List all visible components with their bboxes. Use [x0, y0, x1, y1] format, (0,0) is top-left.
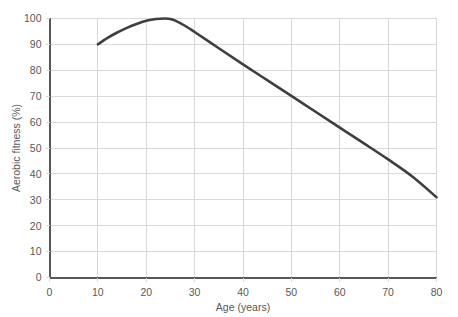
chart-canvas: 010203040506070809010001020304050607080A…: [0, 0, 458, 317]
y-tick-label: 50: [30, 142, 42, 154]
y-tick-label: 80: [30, 64, 42, 76]
y-axis-title: Aerobic fitness (%): [10, 104, 22, 192]
y-tick-label: 0: [36, 271, 42, 283]
y-tick-label: 30: [30, 194, 42, 206]
x-tick-label: 10: [92, 286, 104, 298]
y-tick-label: 70: [30, 90, 42, 102]
x-tick-label: 20: [140, 286, 152, 298]
x-tick-label: 30: [189, 286, 201, 298]
aerobic-fitness-chart: 010203040506070809010001020304050607080A…: [0, 0, 458, 317]
y-tick-label: 60: [30, 116, 42, 128]
x-axis-title: Age (years): [216, 301, 270, 313]
y-tick-label: 10: [30, 245, 42, 257]
x-tick-label: 50: [286, 286, 298, 298]
y-tick-label: 20: [30, 220, 42, 232]
x-tick-label: 0: [47, 286, 53, 298]
x-tick-label: 70: [382, 286, 394, 298]
y-tick-label: 90: [30, 38, 42, 50]
y-tick-label: 100: [24, 12, 42, 24]
x-tick-label: 40: [237, 286, 249, 298]
y-tick-label: 40: [30, 168, 42, 180]
x-tick-label: 60: [334, 286, 346, 298]
x-tick-label: 80: [431, 286, 443, 298]
